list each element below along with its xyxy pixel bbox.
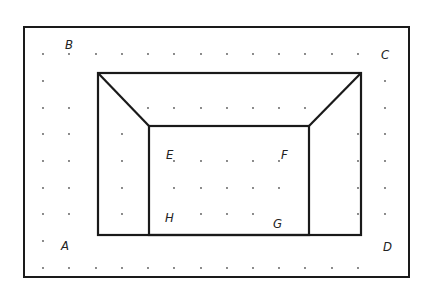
grid-dot [252,160,254,162]
label-b: B [65,37,73,52]
outer-frame [24,27,409,277]
grid-dot [357,133,359,135]
grid-dot [226,187,228,189]
grid-dot [68,213,70,215]
grid-dot [42,160,44,162]
grid-dot [68,187,70,189]
grid-dot [42,133,44,135]
grid-dot [42,187,44,189]
grid-dot [384,133,386,135]
grid-dot [147,267,149,269]
grid-dot [331,53,333,55]
grid-dot [357,187,359,189]
grid-dot [200,107,202,109]
grid-dot [357,53,359,55]
label-d: D [383,239,392,254]
grid-dot [226,107,228,109]
diagonal-left [98,73,149,126]
grid-dot [42,107,44,109]
grid-dot [200,213,202,215]
label-c: C [381,47,390,62]
grid-dot [252,53,254,55]
grid-dot [278,107,280,109]
label-a: A [60,238,69,253]
grid-dot [68,53,70,55]
grid-dot [357,267,359,269]
grid-dot [278,160,280,162]
grid-dot [121,213,123,215]
grid-dot [68,133,70,135]
grid-dot [252,107,254,109]
grid-dot [226,53,228,55]
grid-dot [278,53,280,55]
grid-dot [331,267,333,269]
grid-dot [121,160,123,162]
grid-dot [278,187,280,189]
grid-dot [42,80,44,82]
grid-dot [384,187,386,189]
label-g: G [273,216,282,231]
grid-dot [226,213,228,215]
grid-dot [173,107,175,109]
grid-dot [200,160,202,162]
grid-dot [147,53,149,55]
grid-dot [42,267,44,269]
grid-dot [226,160,228,162]
grid-dot [226,267,228,269]
grid-dot [95,267,97,269]
grid-dot [68,107,70,109]
dot-grid [42,53,386,269]
label-f: F [281,147,288,162]
grid-dot [252,187,254,189]
grid-dot [200,53,202,55]
grid-dot [121,267,123,269]
grid-dot [278,267,280,269]
label-h: H [165,210,174,225]
grid-dot [384,213,386,215]
grid-dot [121,133,123,135]
grid-dot [42,53,44,55]
grid-dot [304,267,306,269]
grid-dot [121,187,123,189]
grid-dot [357,213,359,215]
grid-dot [304,53,306,55]
grid-dot [68,267,70,269]
grid-dot [68,160,70,162]
grid-dot [384,80,386,82]
diagram-canvas: A B C D E F G H [0,0,428,306]
grid-dot [384,107,386,109]
grid-dot [42,213,44,215]
outer-rectangle [98,73,361,235]
grid-dot [200,267,202,269]
grid-dot [147,107,149,109]
grid-dot [121,53,123,55]
label-e: E [166,147,174,162]
grid-dot [173,267,175,269]
grid-dot [384,160,386,162]
grid-dot [173,53,175,55]
point-labels: A B C D E F G H [60,37,392,254]
grid-dot [304,107,306,109]
grid-dot [95,53,97,55]
grid-dot [173,187,175,189]
diagonal-right [309,73,361,126]
grid-dot [42,240,44,242]
grid-dot [252,213,254,215]
grid-dot [357,160,359,162]
grid-dot [200,187,202,189]
grid-dot [252,267,254,269]
